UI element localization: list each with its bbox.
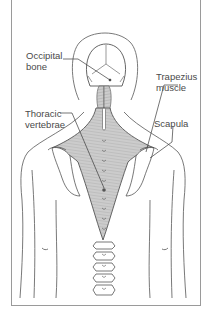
back-anatomy-illustration [0, 0, 206, 315]
lumbar-vertebrae [93, 242, 115, 295]
skull [86, 44, 125, 86]
label-trapezius-muscle: Trapezius muscle [156, 71, 197, 93]
label-scapula: Scapula [154, 118, 188, 129]
label-occipital-bone: Occipital bone [26, 50, 62, 72]
label-thoracic-vertebrae: Thoracic vertebrae [25, 108, 65, 130]
